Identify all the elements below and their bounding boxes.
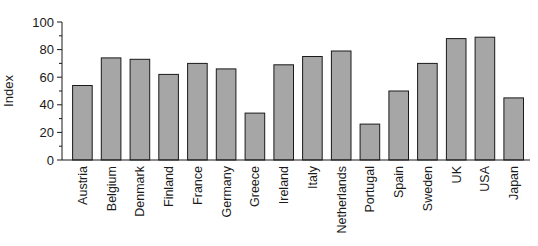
x-tick-label: Sweden [421, 166, 435, 211]
x-axis: AustriaBelgiumDenmarkFinlandFranceGerman… [62, 160, 530, 233]
x-tick-label: Denmark [133, 165, 147, 216]
y-tick-label: 20 [40, 125, 54, 140]
x-tick-label: Austria [76, 166, 90, 205]
x-tick-label: Spain [392, 166, 406, 198]
bar-spain [389, 91, 409, 160]
x-tick-label: Germany [220, 165, 234, 217]
x-tick-label: Netherlands [335, 166, 349, 233]
x-tick-label: UK [450, 165, 464, 183]
x-tick-label: Belgium [105, 166, 119, 211]
bar-france [188, 63, 208, 160]
y-axis-label: Index [1, 75, 16, 107]
y-axis: 020406080100 [32, 15, 62, 168]
x-tick-label: France [191, 166, 205, 205]
x-tick-label: Italy [306, 165, 320, 189]
bar-greece [245, 113, 265, 160]
bar-uk [446, 39, 466, 160]
bar-belgium [101, 58, 121, 160]
x-tick-label: Ireland [277, 166, 291, 204]
y-tick-label: 60 [40, 70, 54, 85]
bar-netherlands [331, 51, 351, 160]
bar-finland [159, 74, 179, 160]
bar-austria [73, 86, 93, 161]
bar-italy [303, 57, 323, 161]
x-tick-label: Japan [507, 166, 521, 200]
bar-germany [216, 69, 236, 160]
bar-denmark [130, 59, 150, 160]
bar-japan [504, 98, 524, 160]
x-tick-label: Finland [162, 166, 176, 207]
bar-sweden [418, 63, 438, 160]
bar-portugal [360, 124, 380, 160]
bars [73, 37, 524, 160]
y-tick-label: 0 [47, 153, 54, 168]
bar-usa [475, 37, 495, 160]
x-tick-label: Portugal [363, 166, 377, 213]
y-tick-label: 80 [40, 42, 54, 57]
y-tick-label: 40 [40, 97, 54, 112]
y-tick-label: 100 [32, 15, 54, 30]
bar-ireland [274, 65, 294, 160]
x-tick-label: Greece [248, 166, 262, 207]
x-tick-label: USA [478, 165, 492, 191]
